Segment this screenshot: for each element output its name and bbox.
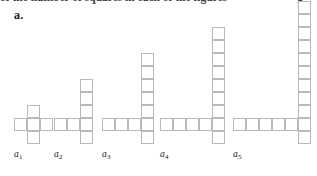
figure-caption-a1: a1 — [14, 149, 53, 159]
unit-square — [212, 105, 225, 118]
unit-square — [27, 105, 40, 118]
unit-square — [212, 27, 225, 40]
unit-square — [160, 118, 173, 131]
caption-subscript: 4 — [165, 153, 169, 161]
unit-square — [141, 79, 154, 92]
unit-square — [298, 131, 311, 144]
unit-square — [80, 92, 93, 105]
unit-square — [199, 118, 212, 131]
unit-square — [298, 14, 311, 27]
figure-caption-a3: a3 — [102, 149, 154, 159]
unit-square — [40, 118, 53, 131]
unit-square — [298, 118, 311, 131]
figure-group-a5: a5 — [233, 1, 311, 144]
unit-square — [67, 118, 80, 131]
unit-square — [298, 105, 311, 118]
unit-square — [102, 118, 115, 131]
unit-square — [141, 131, 154, 144]
unit-square — [233, 118, 246, 131]
figure-group-a4: a4 — [160, 27, 225, 144]
unit-square — [14, 118, 27, 131]
polyomino-a1 — [14, 105, 53, 144]
unit-square — [80, 118, 93, 131]
unit-square — [298, 79, 311, 92]
unit-square — [186, 118, 199, 131]
unit-square — [141, 105, 154, 118]
unit-square — [212, 92, 225, 105]
unit-square — [246, 118, 259, 131]
unit-square — [298, 40, 311, 53]
unit-square — [298, 27, 311, 40]
unit-square — [212, 79, 225, 92]
caption-subscript: 5 — [238, 153, 242, 161]
figure-caption-a2: a2 — [54, 149, 93, 159]
unit-square — [141, 66, 154, 79]
figure-caption-a5: a5 — [233, 149, 311, 159]
unit-square — [54, 118, 67, 131]
unit-square — [212, 53, 225, 66]
unit-square — [212, 66, 225, 79]
unit-square — [27, 131, 40, 144]
caption-subscript: 2 — [59, 153, 63, 161]
polyomino-a3 — [102, 53, 154, 144]
unit-square — [80, 131, 93, 144]
unit-square — [212, 40, 225, 53]
unit-square — [141, 53, 154, 66]
unit-square — [212, 131, 225, 144]
unit-square — [212, 118, 225, 131]
unit-square — [285, 118, 298, 131]
unit-square — [128, 118, 141, 131]
unit-square — [173, 118, 186, 131]
unit-square — [298, 66, 311, 79]
caption-subscript: 1 — [19, 153, 23, 161]
unit-square — [80, 105, 93, 118]
figure-caption-a4: a4 — [160, 149, 225, 159]
polyomino-a4 — [160, 27, 225, 144]
figure-stage: a1a2a3a4a5 — [0, 0, 317, 176]
figure-group-a2: a2 — [54, 79, 93, 144]
unit-square — [141, 118, 154, 131]
unit-square — [259, 118, 272, 131]
unit-square — [115, 118, 128, 131]
figure-group-a1: a1 — [14, 105, 53, 144]
unit-square — [298, 1, 311, 14]
polyomino-a5 — [233, 1, 311, 144]
caption-subscript: 3 — [107, 153, 111, 161]
unit-square — [27, 118, 40, 131]
polyomino-a2 — [54, 79, 93, 144]
figure-group-a3: a3 — [102, 53, 154, 144]
unit-square — [80, 79, 93, 92]
unit-square — [298, 53, 311, 66]
unit-square — [141, 92, 154, 105]
unit-square — [272, 118, 285, 131]
unit-square — [298, 92, 311, 105]
